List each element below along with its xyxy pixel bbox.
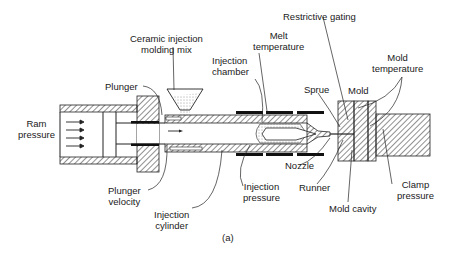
label-mold-temperature: Mold temperature	[372, 52, 423, 74]
label-line: Ceramic injection	[130, 33, 203, 44]
label-ceramic-mix: Ceramic injection molding mix	[130, 33, 203, 55]
label-restrictive-gating: Restrictive gating	[283, 11, 356, 22]
label-injection-chamber: Injection chamber	[212, 55, 249, 77]
ram-cylinder	[60, 105, 137, 164]
label-mold: Mold	[348, 85, 369, 96]
label-plunger-velocity: Plunger velocity	[108, 185, 141, 207]
ram-pressure-arrows	[66, 120, 84, 148]
label-clamp-pressure: Clamp pressure	[397, 179, 434, 201]
label-line: temperature	[253, 41, 304, 52]
label-injection-cylinder: Injection cylinder	[154, 209, 189, 231]
label-melt-temperature: Melt temperature	[253, 30, 304, 52]
label-line: pressure	[18, 129, 55, 140]
label-line: Injection	[154, 209, 189, 220]
label-runner: Runner	[299, 182, 330, 193]
label-line: Injection	[243, 181, 280, 192]
label-plunger: Plunger	[105, 81, 138, 92]
label-line: Plunger	[108, 185, 141, 196]
figure-caption: (a)	[222, 232, 234, 243]
machine-diagram	[0, 0, 455, 259]
label-line: molding mix	[130, 44, 203, 55]
label-line: chamber	[212, 66, 249, 77]
label-line: Mold	[372, 52, 423, 63]
label-nozzle: Nozzle	[285, 160, 314, 171]
label-line: Ram	[18, 118, 55, 129]
label-line: velocity	[108, 196, 141, 207]
plunger-velocity-arrow	[168, 130, 183, 133]
mold	[330, 101, 376, 161]
label-sprue: Sprue	[304, 84, 329, 95]
nozzle	[307, 123, 330, 144]
hopper	[167, 89, 203, 116]
label-line: temperature	[372, 63, 423, 74]
label-ram-pressure: Ram pressure	[18, 118, 55, 140]
label-line: Melt	[253, 30, 304, 41]
label-line: cylinder	[154, 220, 189, 231]
label-line: Clamp	[397, 179, 434, 190]
label-line: pressure	[243, 192, 280, 203]
label-injection-pressure: Injection pressure	[243, 181, 280, 203]
label-line: pressure	[397, 190, 434, 201]
label-mold-cavity: Mold cavity	[329, 203, 377, 214]
label-line: Injection	[212, 55, 249, 66]
